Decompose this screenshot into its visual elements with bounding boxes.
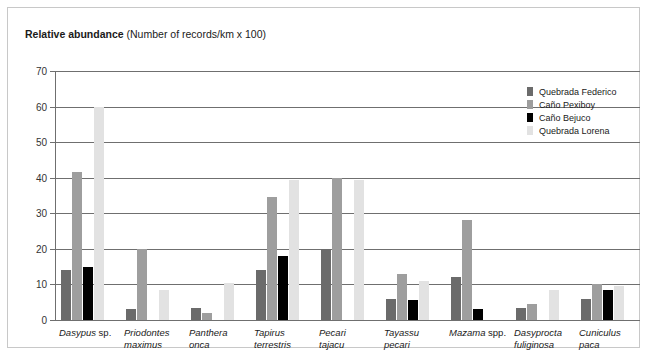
chart-title-normal: (Number of records/km x 100) xyxy=(124,28,266,40)
y-axis-tick-label: 70 xyxy=(15,66,55,77)
legend-item-label: Quebrada Lorena xyxy=(539,126,610,136)
y-axis-tick-label: 50 xyxy=(15,137,55,148)
x-axis-line xyxy=(55,320,640,321)
chart-title-strong: Relative abundance xyxy=(25,28,124,40)
y-axis-tick-label: 40 xyxy=(15,172,55,183)
bar xyxy=(191,308,201,320)
bar xyxy=(581,299,591,320)
bar xyxy=(516,308,526,320)
figure-frame: Relative abundance (Number of records/km… xyxy=(7,7,640,348)
bar xyxy=(267,197,277,320)
bar xyxy=(332,178,342,320)
chart-title: Relative abundance (Number of records/km… xyxy=(25,28,266,40)
bar xyxy=(408,300,418,320)
y-axis-tick-label: 0 xyxy=(15,315,55,326)
y-axis-tick-label: 10 xyxy=(15,279,55,290)
bar xyxy=(83,267,93,320)
bar xyxy=(278,256,288,320)
bar xyxy=(614,286,624,320)
bar-group xyxy=(185,71,250,320)
legend-item-label: Caño Bejuco xyxy=(539,113,591,123)
y-axis-tick-mark xyxy=(50,320,55,321)
bar xyxy=(289,180,299,321)
legend-swatch-icon xyxy=(527,126,533,135)
bar xyxy=(321,249,331,320)
legend-swatch-icon xyxy=(527,113,533,122)
legend-item[interactable]: Quebrada Federico xyxy=(527,86,639,98)
legend-item-label: Quebrada Federico xyxy=(539,87,617,97)
bar xyxy=(224,283,234,320)
bar-group xyxy=(315,71,380,320)
bar-group xyxy=(120,71,185,320)
legend-item-label: Caño Pexiboy xyxy=(539,100,595,110)
bar xyxy=(592,284,602,320)
bar-group xyxy=(55,71,120,320)
bar xyxy=(603,290,613,320)
bar xyxy=(72,172,82,320)
legend-item[interactable]: Caño Pexiboy xyxy=(527,99,639,111)
x-axis-category-label: Cuniculuspaca xyxy=(579,327,649,350)
bar xyxy=(94,107,104,320)
bar xyxy=(137,249,147,320)
bar xyxy=(462,220,472,320)
bar xyxy=(419,281,429,320)
bar xyxy=(397,274,407,320)
bar xyxy=(386,299,396,320)
bar xyxy=(473,309,483,320)
legend-swatch-icon xyxy=(527,87,533,96)
bar-group xyxy=(445,71,510,320)
y-axis-tick-label: 20 xyxy=(15,243,55,254)
legend-swatch-icon xyxy=(527,100,533,109)
bar xyxy=(256,270,266,320)
bar xyxy=(451,277,461,320)
bar xyxy=(126,309,136,320)
bar xyxy=(354,180,364,321)
y-axis-tick-label: 60 xyxy=(15,101,55,112)
y-axis-tick-label: 30 xyxy=(15,208,55,219)
bar-group xyxy=(380,71,445,320)
bar xyxy=(549,290,559,320)
bar xyxy=(527,304,537,320)
bar xyxy=(61,270,71,320)
legend-item[interactable]: Caño Bejuco xyxy=(527,112,639,124)
bar xyxy=(202,313,212,320)
legend: Quebrada FedericoCaño PexiboyCaño Bejuco… xyxy=(527,86,639,138)
legend-item[interactable]: Quebrada Lorena xyxy=(527,125,639,137)
bar-group xyxy=(250,71,315,320)
bar xyxy=(159,290,169,320)
